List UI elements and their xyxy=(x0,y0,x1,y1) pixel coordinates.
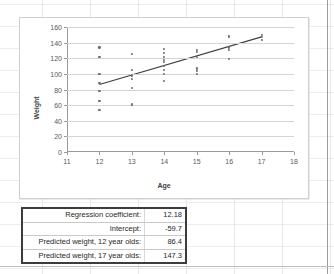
y-tick-mark xyxy=(64,136,67,137)
y-tick-mark xyxy=(64,43,67,44)
y-gridline xyxy=(67,121,294,122)
chart-inner: Weight Age 02040608010012014016011121314… xyxy=(20,18,308,198)
y-tick-label: 160 xyxy=(50,24,62,31)
x-tick-mark xyxy=(164,152,165,155)
result-label: Intercept: xyxy=(22,222,145,236)
x-tick-label: 14 xyxy=(160,158,168,165)
x-tick-mark xyxy=(197,152,198,155)
y-tick-label: 0 xyxy=(58,149,62,156)
result-label: Regression coefficient: xyxy=(22,208,145,222)
x-tick-label: 15 xyxy=(193,158,201,165)
y-gridline xyxy=(67,27,294,28)
result-label: Predicted weight, 17 year olds: xyxy=(22,249,145,263)
y-tick-label: 120 xyxy=(50,55,62,62)
result-label: Predicted weight, 12 year olds: xyxy=(22,236,145,250)
y-gridline xyxy=(67,90,294,91)
result-value: 86.4 xyxy=(145,236,187,250)
y-gridline xyxy=(67,105,294,106)
results-table-body: Regression coefficient:12.18Intercept:-5… xyxy=(22,208,186,263)
y-tick-label: 80 xyxy=(54,86,62,93)
x-tick-mark xyxy=(294,152,295,155)
table-row[interactable]: Predicted weight, 12 year olds:86.4 xyxy=(22,236,186,250)
x-tick-label: 11 xyxy=(63,158,70,165)
y-tick-mark xyxy=(64,58,67,59)
result-value: 147.3 xyxy=(145,249,187,263)
y-tick-mark xyxy=(64,90,67,91)
x-tick-label: 12 xyxy=(96,158,104,165)
table-row[interactable]: Predicted weight, 17 year olds:147.3 xyxy=(22,249,186,263)
spreadsheet-right-edge xyxy=(327,0,328,274)
plot-area: 0204060801001201401601112131415161718 xyxy=(67,27,294,152)
y-tick-mark xyxy=(64,121,67,122)
x-tick-mark xyxy=(67,152,68,155)
result-value: -59.7 xyxy=(145,222,187,236)
x-tick-mark xyxy=(99,152,100,155)
y-gridline xyxy=(67,74,294,75)
x-tick-label: 18 xyxy=(290,158,298,165)
y-tick-label: 140 xyxy=(50,39,62,46)
x-tick-mark xyxy=(229,152,230,155)
y-tick-label: 20 xyxy=(54,133,62,140)
result-value: 12.18 xyxy=(145,208,187,222)
scatter-chart[interactable]: Weight Age 02040608010012014016011121314… xyxy=(19,17,309,199)
y-tick-mark xyxy=(64,105,67,106)
table-row[interactable]: Intercept:-59.7 xyxy=(22,222,186,236)
spreadsheet-bottom-edge xyxy=(0,266,334,267)
y-gridline xyxy=(67,136,294,137)
x-tick-label: 16 xyxy=(225,158,233,165)
y-tick-label: 40 xyxy=(54,117,62,124)
x-tick-label: 13 xyxy=(128,158,136,165)
y-tick-label: 60 xyxy=(54,102,62,109)
y-axis-label: Weight xyxy=(33,96,40,119)
x-tick-label: 17 xyxy=(258,158,266,165)
x-tick-mark xyxy=(262,152,263,155)
y-tick-mark xyxy=(64,27,67,28)
y-tick-label: 100 xyxy=(50,70,62,77)
y-gridline xyxy=(67,58,294,59)
y-tick-mark xyxy=(64,74,67,75)
x-tick-mark xyxy=(132,152,133,155)
x-axis-label: Age xyxy=(20,182,308,189)
regression-results-table: Regression coefficient:12.18Intercept:-5… xyxy=(21,207,187,264)
table-row[interactable]: Regression coefficient:12.18 xyxy=(22,208,186,222)
y-gridline xyxy=(67,43,294,44)
